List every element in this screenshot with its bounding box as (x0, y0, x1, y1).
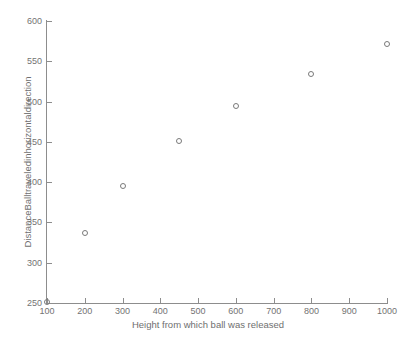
scatter-plot-figure: 1002003004005006007008009001000 25030035… (0, 0, 416, 341)
y-axis-label: DistanceBalltraveledinhorizontaldirectio… (22, 21, 36, 303)
data-point-marker (308, 71, 314, 77)
x-tick-label: 200 (77, 306, 92, 316)
x-tick-label: 300 (115, 306, 130, 316)
x-tick-label: 800 (304, 306, 319, 316)
x-tick-label: 400 (153, 306, 168, 316)
data-point-marker (44, 299, 50, 305)
x-tick-label: 500 (191, 306, 206, 316)
plot-area (47, 21, 387, 303)
data-point-marker (176, 138, 182, 144)
data-point-marker (120, 183, 126, 189)
x-tick-label: 700 (266, 306, 281, 316)
x-tick-label: 900 (342, 306, 357, 316)
data-point-marker (82, 230, 88, 236)
data-point-marker (384, 41, 390, 47)
data-point-marker (233, 103, 239, 109)
x-tick-mark (387, 298, 388, 303)
x-tick-label: 1000 (377, 306, 397, 316)
x-tick-label: 600 (228, 306, 243, 316)
x-axis-line (46, 303, 388, 304)
x-axis-label: Height from which ball was released (0, 319, 416, 330)
